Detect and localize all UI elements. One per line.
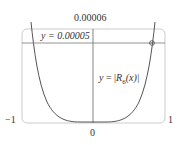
hline-label: y = 0.00005 [40, 31, 91, 41]
x-min-label: −1 [5, 115, 16, 125]
curve-label: y = |R6(x)| [99, 73, 140, 86]
x-max-label: 1 [168, 115, 173, 125]
x-zero-label: 0 [90, 128, 95, 138]
curve-label-eq: = | [103, 72, 116, 83]
hline-label-text: y = 0.00005 [41, 30, 90, 41]
curve-label-x: (x)| [126, 72, 140, 83]
y-max-label: 0.00006 [74, 13, 107, 23]
